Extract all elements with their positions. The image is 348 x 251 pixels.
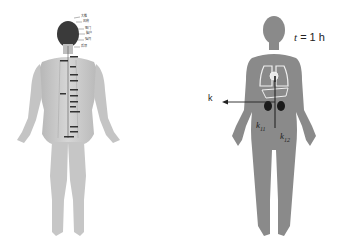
time-label: t = 1 h [294, 31, 325, 43]
acupoint-label: 大椎 [81, 15, 87, 18]
acupoint-label: 哑门 [85, 27, 91, 30]
acupoint-label: 脑户 [86, 32, 92, 35]
back-view-figure-panel: 大椎 风府 哑门 脑户 强间 后顶 [0, 0, 174, 251]
rate-constant-k11-label: k11 [256, 120, 266, 132]
acupoint-label: 后顶 [81, 45, 87, 48]
acupoint-label: 强间 [85, 38, 91, 41]
elimination-rate-label: k [208, 93, 213, 103]
rate-constant-k12-label: k12 [280, 131, 290, 143]
pharmacokinetic-figure-panel: t = 1 h k k11 k12 [174, 0, 348, 251]
acupoint-label: 风府 [83, 20, 89, 23]
